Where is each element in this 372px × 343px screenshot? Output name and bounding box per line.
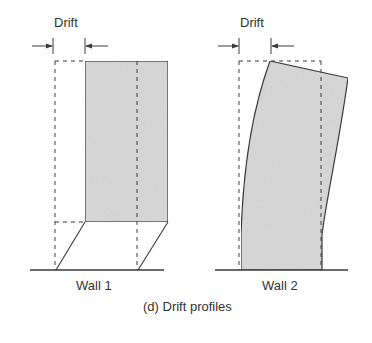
drift-profiles-diagram (0, 0, 372, 343)
wall-1-label: Wall 1 (76, 278, 112, 293)
drift-dimension-1 (32, 38, 108, 54)
figure-caption: (d) Drift profiles (143, 299, 232, 314)
wall-2-label: Wall 2 (262, 278, 298, 293)
wall-2-figure (215, 38, 348, 270)
wall-2-deformed-body (241, 61, 348, 270)
drift-label-1: Drift (54, 15, 78, 30)
wall-1-figure (30, 38, 168, 270)
wall-1-deformed-body (85, 61, 168, 222)
drift-label-2: Drift (240, 15, 264, 30)
drift-dimension-2 (218, 38, 294, 54)
wall-1-sheared-storey (56, 222, 168, 270)
